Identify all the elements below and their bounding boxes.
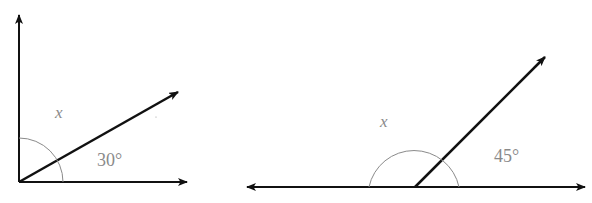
given-angle-label: 30° [97, 150, 122, 170]
given-angle-label: 45° [494, 146, 519, 166]
stray-dot [155, 116, 156, 117]
diagonal-ray [415, 57, 545, 187]
unknown-angle-label: x [54, 103, 63, 122]
figure-2: x 45° [247, 57, 585, 187]
figure-1: x 30° [19, 15, 187, 182]
unknown-angle-label: x [379, 112, 388, 131]
angle-diagram: x 30° x 45° [0, 0, 592, 203]
